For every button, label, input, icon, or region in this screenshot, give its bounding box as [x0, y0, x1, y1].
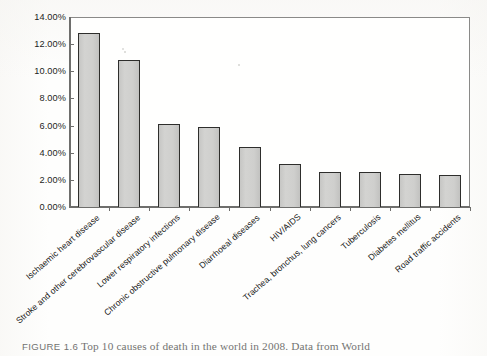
y-tick-mark — [69, 207, 74, 208]
bar — [198, 127, 220, 207]
x-category-label: Chronic obstructive pulmonary disease — [102, 212, 222, 318]
x-category-label: Trachea, bronchus, lung cancers — [241, 212, 343, 302]
x-tick-mark — [470, 207, 471, 211]
figure-caption-text: Top 10 causes of death in the world in 2… — [81, 340, 370, 352]
bar — [239, 147, 261, 207]
y-tick-label: 4.00% — [2, 148, 66, 158]
x-category-label: Road traffic accidents — [393, 212, 463, 274]
x-category-label: Lower respiratory infections — [95, 212, 182, 289]
y-tick-label: 2.00% — [2, 175, 66, 185]
bar — [78, 33, 100, 207]
bars-layer — [69, 17, 470, 207]
bar — [319, 172, 341, 207]
x-category-label: Tuberculosis — [339, 212, 383, 252]
x-tick-mark — [229, 207, 230, 211]
figure-number: FIGURE 1.6 — [22, 341, 78, 352]
y-tick-label: 14.00% — [2, 12, 66, 22]
figure-caption: FIGURE 1.6 Top 10 causes of death in the… — [22, 340, 477, 352]
x-tick-mark — [310, 207, 311, 211]
bar — [439, 175, 461, 207]
y-tick-label: 8.00% — [2, 93, 66, 103]
y-tick-label: 12.00% — [2, 39, 66, 49]
scan-speck — [122, 48, 124, 50]
bar — [279, 164, 301, 207]
y-tick-label: 6.00% — [2, 121, 66, 131]
bar-chart-figure: 0.00%2.00%4.00%6.00%8.00%10.00%12.00%14.… — [0, 0, 487, 332]
x-category-label: Diabetes mellitus — [366, 212, 423, 263]
x-tick-mark — [189, 207, 190, 211]
y-tick-label: 10.00% — [2, 66, 66, 76]
x-tick-mark — [270, 207, 271, 211]
bar — [158, 124, 180, 207]
x-tick-mark — [109, 207, 110, 211]
x-tick-mark — [430, 207, 431, 211]
x-tick-mark — [350, 207, 351, 211]
y-tick-label: 0.00% — [2, 202, 66, 212]
bar — [118, 60, 140, 207]
x-category-label: HIV/AIDS — [268, 212, 303, 244]
bar — [399, 174, 421, 207]
x-tick-mark — [390, 207, 391, 211]
scan-speck — [238, 64, 240, 66]
x-category-label: Diarrhoeal diseases — [197, 212, 262, 270]
scan-speck — [124, 51, 126, 53]
bar — [359, 172, 381, 207]
x-tick-mark — [149, 207, 150, 211]
scanned-page: 0.00%2.00%4.00%6.00%8.00%10.00%12.00%14.… — [0, 0, 487, 356]
y-axis-tick-labels: 0.00%2.00%4.00%6.00%8.00%10.00%12.00%14.… — [0, 0, 66, 332]
